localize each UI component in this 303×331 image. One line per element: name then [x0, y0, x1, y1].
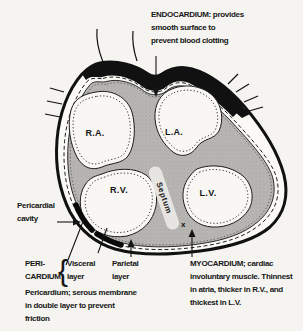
myocardium-caption-line2: involuntary muscle. Thinnest	[190, 270, 292, 283]
visceral-layer-caption: Visceral layer	[67, 257, 95, 283]
heart-cross-section-diagram: x Septum R.A. L.A. R.V. L.V. ENDOCARDIUM…	[0, 0, 303, 331]
endocardium-caption-line1: ENDOCARDIUM: provides	[151, 8, 244, 21]
endocardium-caption-line3: prevent blood clotting	[151, 34, 244, 47]
myocardium-caption: MYOCARDIUM; cardiac involuntary muscle. …	[190, 257, 292, 309]
parietal-layer-caption: Parietal layer	[112, 257, 139, 283]
right-atrium-label: R.A.	[85, 128, 104, 138]
myocardium-caption-line1: MYOCARDIUM; cardiac	[190, 257, 292, 270]
pericardium-note-line3: friction	[25, 312, 137, 325]
endocardium-caption-line2: smooth surface to	[151, 21, 244, 34]
visceral-layer-line2: layer	[67, 270, 95, 283]
visceral-layer-line1: Visceral	[67, 257, 95, 270]
left-atrium-label: L.A.	[165, 127, 183, 137]
pericardium-note: Pericardium; serous membrane in double l…	[25, 286, 137, 325]
pericardial-cavity-line2: cavity	[17, 212, 55, 225]
parietal-layer-line2: layer	[112, 270, 139, 283]
myocardium-caption-line3: in atria, thicker in R.V., and	[190, 283, 292, 296]
pericardium-word-line1: PERI-	[25, 257, 61, 270]
pericardial-cavity-caption: Pericardial cavity	[17, 199, 55, 225]
right-ventricle-label: R.V.	[110, 185, 128, 195]
endocardium-caption: ENDOCARDIUM: provides smooth surface to …	[151, 8, 244, 47]
myocardium-x-marker: x	[181, 220, 186, 229]
pericardium-word: PERI- CARDIUM	[25, 257, 61, 283]
parietal-layer-line1: Parietal	[112, 257, 139, 270]
pericardium-note-line2: in double layer to prevent	[25, 299, 137, 312]
left-ventricle-label: L.V.	[200, 188, 217, 198]
pericardium-note-line1: Pericardium; serous membrane	[25, 286, 137, 299]
myocardium-caption-line4: thickest in L.V.	[190, 296, 292, 309]
pericardium-word-line2: CARDIUM	[25, 270, 61, 283]
pericardial-cavity-line1: Pericardial	[17, 199, 55, 212]
